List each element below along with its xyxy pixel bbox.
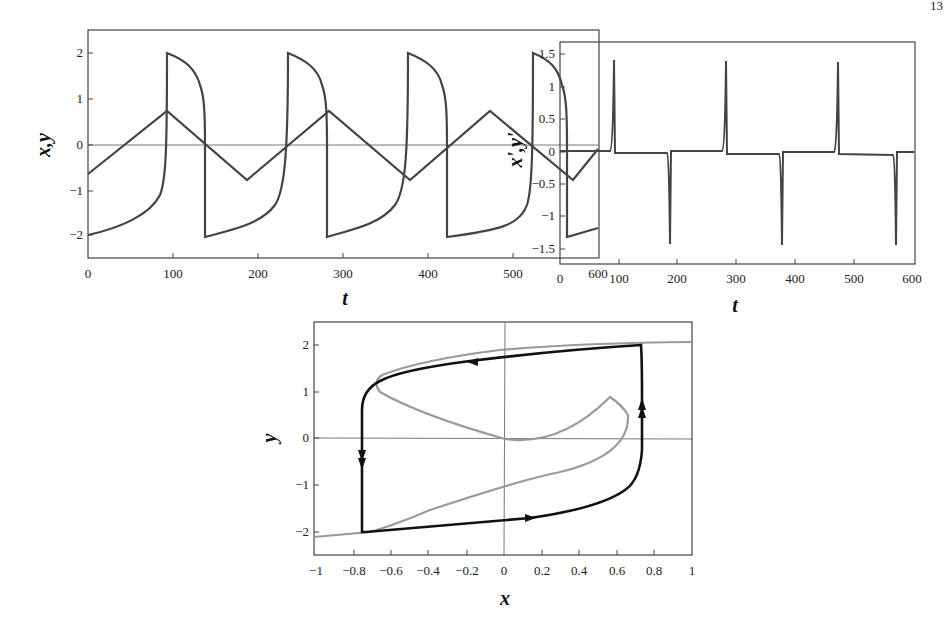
svg-text:500: 500	[503, 266, 523, 281]
svg-text:0: 0	[77, 137, 84, 152]
svg-text:100: 100	[163, 266, 183, 281]
plot2-xlabel: t	[732, 294, 739, 316]
svg-text:0.8: 0.8	[646, 563, 662, 578]
plot-phase-plane: 2 1 0 −1 −2 −1 −0.8 −0.6 −0.4 −0.2 0 0.2…	[258, 322, 695, 609]
plot3-xlabel: x	[499, 587, 510, 609]
svg-text:0: 0	[501, 563, 508, 578]
svg-text:200: 200	[248, 266, 268, 281]
svg-text:−0.2: −0.2	[455, 563, 479, 578]
svg-text:0: 0	[303, 430, 310, 445]
figure-canvas: 13 2 1 0 −1 −2 0 100 200 300 400 500 60	[0, 0, 952, 630]
plot3-ylabel: y	[258, 433, 281, 444]
plot3-xticks: −1 −0.8 −0.6 −0.4 −0.2 0 0.2 0.4 0.6 0.8…	[309, 563, 695, 578]
svg-text:500: 500	[844, 271, 864, 286]
svg-text:−0.4: −0.4	[416, 563, 440, 578]
svg-text:400: 400	[418, 266, 438, 281]
svg-text:−0.8: −0.8	[342, 563, 366, 578]
svg-text:1: 1	[303, 384, 310, 399]
plot1-xlabel: t	[342, 287, 349, 309]
svg-text:200: 200	[667, 271, 687, 286]
svg-text:0.5: 0.5	[539, 111, 555, 126]
svg-text:2: 2	[303, 337, 310, 352]
plot2-yticks: 1.5 1 0.5 0 −0.5 −1 −1.5	[531, 46, 555, 256]
plot2-xticks: 0 100 200 300 400 500 600	[557, 271, 922, 286]
svg-text:0: 0	[557, 271, 564, 286]
svg-text:0: 0	[549, 144, 556, 159]
svg-text:0: 0	[85, 266, 92, 281]
svg-text:1: 1	[689, 563, 696, 578]
svg-text:0.2: 0.2	[534, 563, 550, 578]
svg-text:100: 100	[609, 271, 629, 286]
svg-text:−2: −2	[69, 227, 83, 242]
svg-text:−0.5: −0.5	[531, 176, 555, 191]
plot2-series-derivatives	[560, 60, 914, 245]
arrow-down-icon	[358, 458, 366, 470]
plot1-xticks: 0 100 200 300 400 500 600	[85, 266, 608, 281]
plot3-nullcline	[314, 342, 692, 537]
plot1-yticks: 2 1 0 −1 −2	[69, 45, 83, 242]
svg-text:300: 300	[726, 271, 746, 286]
svg-text:400: 400	[785, 271, 805, 286]
svg-text:−2: −2	[295, 524, 309, 539]
page-number: 13	[930, 0, 943, 13]
svg-text:300: 300	[333, 266, 353, 281]
plot-xy-vs-t: 2 1 0 −1 −2 0 100 200 300 400 500 600 t …	[32, 30, 608, 309]
svg-text:600: 600	[588, 266, 608, 281]
svg-text:1: 1	[77, 91, 84, 106]
arrow-left-icon	[467, 358, 478, 366]
svg-text:2: 2	[77, 45, 84, 60]
arrow-right-icon	[525, 514, 536, 522]
svg-text:−1: −1	[541, 208, 555, 223]
plot3-direction-arrows	[358, 358, 646, 522]
svg-text:−1: −1	[295, 477, 309, 492]
plot2-ylabel: x',y'	[504, 132, 527, 168]
svg-text:1: 1	[549, 79, 556, 94]
svg-text:−1: −1	[69, 183, 83, 198]
plot1-ylabel: x,y	[32, 133, 55, 158]
svg-text:1.5: 1.5	[539, 46, 555, 61]
svg-text:−0.6: −0.6	[379, 563, 403, 578]
svg-text:0.4: 0.4	[571, 563, 588, 578]
svg-text:0.6: 0.6	[609, 563, 626, 578]
plot3-yticks: 2 1 0 −1 −2	[295, 337, 309, 539]
svg-text:−1: −1	[309, 563, 323, 578]
svg-text:−1.5: −1.5	[531, 241, 555, 256]
svg-text:600: 600	[902, 271, 922, 286]
